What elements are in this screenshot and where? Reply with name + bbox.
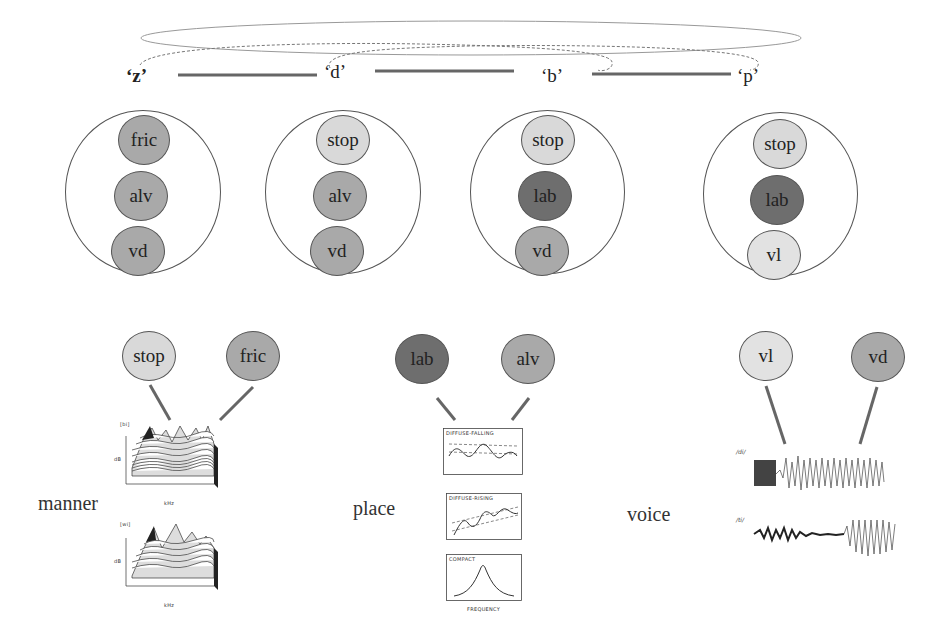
y-axis-label: dB (114, 456, 121, 462)
arc-z-p (141, 21, 801, 55)
feature-fric: fric (118, 115, 170, 165)
waveform-tag: /ti/ (736, 516, 744, 523)
feature-stop: stop (316, 115, 370, 165)
dimension-label-manner: manner (38, 492, 98, 515)
plot-tag: [bi] (120, 421, 130, 427)
voice-waveform-di (750, 452, 900, 502)
dimension-label-voice: voice (627, 503, 670, 526)
dimension-feature-vd: vd (851, 332, 905, 382)
plot-title: COMPACT (449, 556, 475, 562)
dimension-feature-fric: fric (226, 331, 280, 381)
feature-stop: stop (521, 115, 575, 165)
dimension-feature-stop: stop (122, 331, 176, 381)
line-vl-plot (766, 386, 785, 444)
feature-vd: vd (310, 226, 364, 276)
feature-lab: lab (750, 175, 804, 225)
y-axis-label: dB (114, 558, 121, 564)
segment-label-b: ‘b’ (541, 66, 563, 85)
manner-spectrum-plot-2 (110, 518, 240, 608)
x-axis-label: kHz (164, 500, 174, 506)
dimension-feature-vl: vl (739, 331, 793, 381)
manner-spectrum-plot-1 (110, 418, 240, 508)
line-lab-plot (437, 398, 455, 420)
line-fric-plot (220, 387, 253, 420)
plot-title: DIFFUSE-FALLING (446, 430, 494, 436)
waveform-tag: /di/ (736, 448, 746, 455)
dimension-feature-alv: alv (501, 334, 555, 384)
feature-vd: vd (111, 226, 165, 276)
line-alv-plot (512, 398, 529, 420)
x-axis-label: kHz (164, 602, 174, 608)
line-stop-plot (150, 385, 170, 420)
segment-label-z: ‘z’ (126, 66, 147, 85)
feature-stop: stop (753, 119, 807, 169)
line-vd-plot (860, 387, 877, 444)
feature-alv: alv (313, 171, 367, 221)
feature-vl: vl (747, 230, 801, 280)
feature-alv: alv (114, 171, 168, 221)
voice-waveform-ti (750, 518, 900, 578)
dimension-feature-lab: lab (395, 334, 449, 384)
feature-lab: lab (518, 171, 572, 221)
segment-label-d: ‘d’ (324, 62, 346, 81)
x-axis-label: FREQUENCY (467, 606, 500, 612)
plot-title: DIFFUSE-RISING (449, 495, 493, 501)
plot-tag: [wi] (120, 521, 131, 527)
segment-label-p: ‘p’ (737, 66, 759, 85)
feature-vd: vd (515, 226, 569, 276)
dimension-label-place: place (353, 497, 395, 520)
